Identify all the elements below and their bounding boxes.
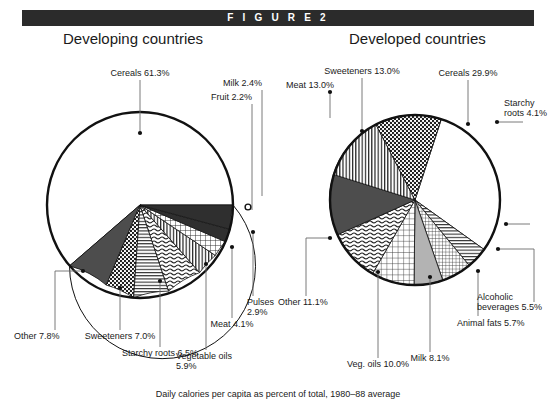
label-cereals-developed: Cereals 29.9%: [428, 68, 508, 79]
figure-caption: Daily calories per capita as percent of …: [0, 389, 556, 399]
label-starchy-roots-developed-line2: roots 4.1%: [504, 108, 547, 119]
label-other-developing: Other 7.8%: [14, 331, 60, 342]
label-meat-developed: Meat 13.0%: [286, 80, 334, 91]
label-vegetable-oils-developed: Veg. oils 10.0%: [336, 359, 420, 370]
label-sweeteners-developed: Sweeteners 13.0%: [313, 66, 411, 77]
label-other-developed: Other 11.1%: [278, 297, 328, 308]
label-pulses-developing-line2: 2.9%: [247, 307, 268, 318]
label-meat-developing: Meat 4.1%: [199, 319, 265, 330]
label-milk-developing: Milk 2.4%: [194, 78, 262, 89]
label-sweeteners-developing: Sweeteners 7.0%: [67, 331, 173, 342]
label-pulses-developing-line1: Pulses: [247, 297, 274, 308]
pie-developed: [330, 115, 500, 285]
pie-charts-graphic: [0, 0, 556, 413]
label-starchy-roots-developed-line1: Starchy: [504, 98, 535, 109]
label-starchy-roots-developing: Starchy roots 6.5%: [111, 348, 209, 359]
label-animal-fats-developed: Animal fats 5.7%: [457, 318, 525, 329]
label-cereals-developing: Cereals 61.3%: [93, 68, 187, 79]
label-vegetable-oils-developing-line2: 5.9%: [176, 361, 197, 372]
figure-canvas: F I G U R E 2 Developing countries Devel…: [0, 0, 556, 413]
label-alcoholic-beverages-developed-line1: Alcoholic: [477, 292, 513, 303]
label-alcoholic-beverages-developed-line2: beverages 5.5%: [477, 302, 542, 313]
label-fruit-developing: Fruit 2.2%: [186, 92, 252, 103]
